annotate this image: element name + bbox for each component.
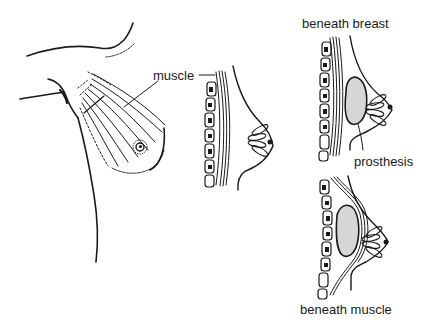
label-beneath-muscle: beneath muscle <box>300 303 392 316</box>
diagram-canvas: muscle beneath breast prosthesis beneath… <box>0 0 428 327</box>
front-view-figure <box>20 23 165 262</box>
side-view-submuscular-figure <box>318 176 389 299</box>
side-view-subglandular-figure <box>319 36 393 161</box>
side-view-normal-figure <box>199 66 273 190</box>
label-muscle: muscle <box>153 69 194 82</box>
label-prosthesis: prosthesis <box>354 155 413 168</box>
label-beneath-breast: beneath breast <box>302 17 389 30</box>
